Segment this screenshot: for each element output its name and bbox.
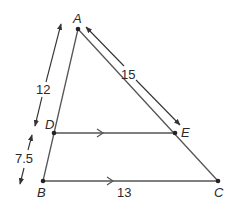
dimension-arrow-ae	[86, 27, 124, 66]
point-b	[41, 179, 46, 184]
label-ae: 15	[121, 67, 135, 82]
label-point-c: C	[214, 185, 224, 200]
label-point-e: E	[181, 125, 190, 140]
label-point-b: B	[37, 185, 46, 200]
triangle-diagram: 12 7.5 15 13 A B C D E	[0, 0, 241, 208]
point-a	[76, 27, 81, 32]
point-c	[216, 179, 221, 184]
label-db: 7.5	[15, 151, 33, 166]
label-point-d: D	[45, 117, 54, 132]
label-bc: 13	[117, 185, 131, 200]
dimension-arrow-ad	[46, 24, 61, 82]
dimension-arrow-ad-lower	[35, 97, 42, 126]
label-ad: 12	[36, 82, 50, 97]
point-e	[173, 131, 178, 136]
dimension-arrow-db-lower	[20, 168, 24, 184]
dimension-arrow-ae-lower	[136, 80, 180, 125]
side-ac	[78, 29, 218, 181]
dimension-arrow-db-upper	[28, 135, 32, 150]
side-ab	[43, 29, 78, 181]
label-point-a: A	[72, 11, 82, 26]
